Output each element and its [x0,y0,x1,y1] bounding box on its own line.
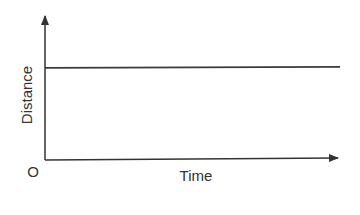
x-axis [45,158,338,160]
distance-line [45,67,340,68]
distance-time-graph: Distance Time O [0,0,360,215]
origin-label: O [27,163,39,180]
y-axis-label: Distance [18,66,35,124]
x-axis-label: Time [180,167,213,184]
